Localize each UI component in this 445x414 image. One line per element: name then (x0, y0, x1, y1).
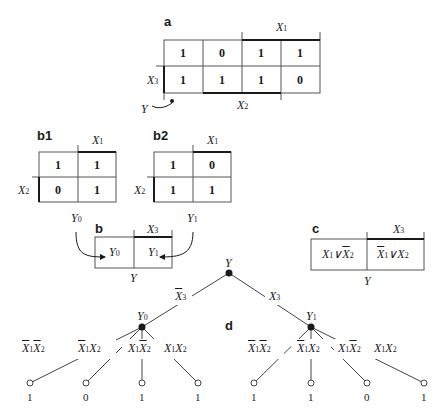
var-x2: X2 (134, 183, 145, 198)
cell: 0 (297, 73, 303, 88)
output-y0: Y0 (71, 211, 82, 226)
leaf-value: 1 (308, 391, 314, 403)
cell: 0 (209, 158, 215, 173)
edge-not-x3: X3 (175, 289, 186, 304)
leaf-value: 0 (364, 391, 370, 403)
cell: 1 (94, 158, 100, 173)
output-y1: Y1 (187, 211, 198, 226)
var-x2: X2 (18, 183, 29, 198)
edge-label: X1X2 (338, 341, 361, 356)
var-x1: X1 (207, 133, 218, 148)
cell-c0: X1∨X2 (322, 247, 354, 262)
var-x3: X3 (147, 222, 158, 237)
leaf-value: 1 (195, 391, 201, 403)
output-y: Y (364, 274, 371, 289)
panel-label-d: d (225, 318, 233, 333)
edge-label: X1X2 (78, 341, 101, 356)
cell-c1: X1∨X2 (377, 247, 409, 262)
panel-label-c: c (312, 221, 319, 236)
cell-y0: Y0 (109, 245, 120, 260)
cell: 1 (180, 46, 186, 61)
cell: 1 (170, 158, 176, 173)
cell: 1 (94, 183, 100, 198)
root-label: Y (225, 256, 232, 271)
var-x3: X3 (393, 222, 404, 237)
edge-label: X1X2 (248, 341, 271, 356)
output-y: Y (130, 271, 137, 286)
cell: 1 (258, 46, 264, 61)
cell: 1 (170, 183, 176, 198)
var-x3: X3 (147, 73, 158, 88)
panel-label-a: a (164, 14, 171, 29)
var-x1: X1 (276, 20, 287, 35)
panel-label-b: b (95, 221, 103, 236)
leaf-value: 0 (83, 391, 89, 403)
node-y0-label: Y0 (137, 309, 148, 324)
cell: 1 (219, 73, 225, 88)
cell: 1 (55, 158, 61, 173)
leaf-value: 1 (27, 391, 33, 403)
edge-label: X1X2 (22, 341, 45, 356)
leaf-value: 1 (139, 391, 145, 403)
output-y: Y (141, 102, 148, 117)
edge-label: X1X2 (297, 341, 320, 356)
panel-label-b1: b1 (37, 128, 52, 143)
edge-label: X1X2 (374, 341, 397, 356)
edge-x3: X3 (269, 289, 280, 304)
cell: 1 (209, 183, 215, 198)
cell: 1 (258, 73, 264, 88)
cell: 1 (180, 73, 186, 88)
cell: 0 (219, 46, 225, 61)
panel-label-b2: b2 (153, 128, 168, 143)
var-x2: X2 (237, 98, 248, 113)
leaf-value: 1 (251, 391, 257, 403)
cell: 1 (297, 46, 303, 61)
cell-y1: Y1 (148, 245, 159, 260)
var-x1: X1 (92, 133, 103, 148)
cell: 0 (55, 183, 61, 198)
node-y1-label: Y1 (306, 309, 317, 324)
edge-label: X1X2 (164, 341, 187, 356)
leaf-value: 1 (421, 391, 427, 403)
edge-label: X1X2 (128, 341, 151, 356)
